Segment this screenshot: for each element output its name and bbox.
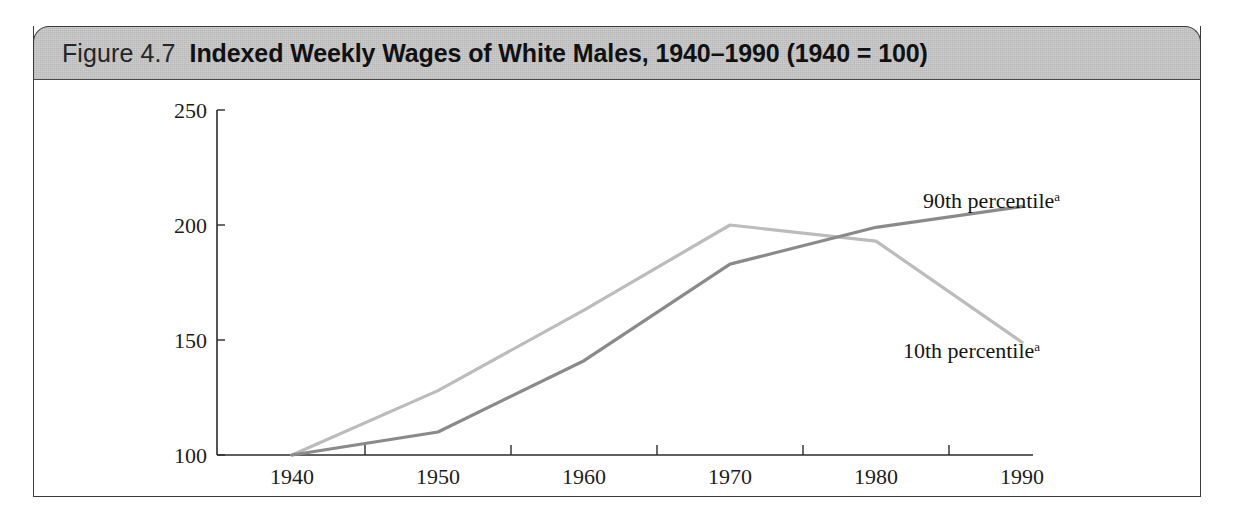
series-line-90th-percentile	[292, 207, 1022, 455]
svg-text:90th percentilea: 90th percentilea	[923, 188, 1060, 213]
x-tick-label: 1960	[562, 464, 606, 489]
annotation-10th-percentile: 10th percentilea	[903, 338, 1040, 363]
x-tick-label: 1950	[416, 464, 460, 489]
figure-title: Indexed Weekly Wages of White Males, 194…	[190, 39, 928, 68]
annotation-10-superscript: a	[1034, 339, 1040, 354]
annotation-10-text: 10th percentile	[903, 338, 1034, 363]
x-axis-labels: 1940 1950 1960 1970 1980 1990	[270, 464, 1044, 489]
x-axis-ticks	[365, 445, 949, 455]
annotation-90-superscript: a	[1054, 189, 1060, 204]
x-tick-label: 1980	[854, 464, 898, 489]
figure-header-band: Figure 4.7 Indexed Weekly Wages of White…	[33, 26, 1201, 80]
figure-number: Figure 4.7	[62, 39, 176, 68]
annotation-90-text: 90th percentile	[923, 188, 1054, 213]
y-tick-label: 150	[174, 328, 207, 353]
x-tick-label: 1990	[1000, 464, 1044, 489]
svg-text:10th percentilea: 10th percentilea	[903, 338, 1040, 363]
y-tick-label: 100	[174, 443, 207, 468]
x-tick-label: 1940	[270, 464, 314, 489]
chart-plot-area: 250 200 150 100 1940 1950 1960 1970 1980…	[33, 80, 1201, 497]
y-tick-label: 200	[174, 213, 207, 238]
line-chart: 250 200 150 100 1940 1950 1960 1970 1980…	[33, 80, 1201, 497]
annotation-90th-percentile: 90th percentilea	[923, 188, 1060, 213]
y-axis-labels: 250 200 150 100	[174, 98, 207, 468]
x-tick-label: 1970	[708, 464, 752, 489]
y-tick-label: 250	[174, 98, 207, 123]
y-axis-ticks	[217, 110, 225, 455]
